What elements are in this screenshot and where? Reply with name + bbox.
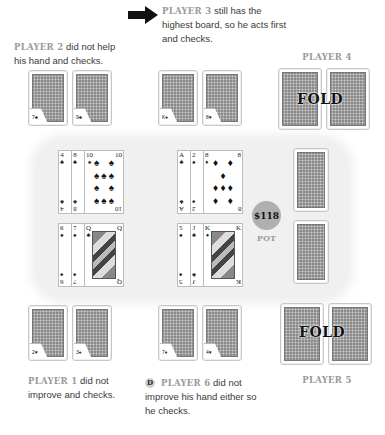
playing-card: 5♠5♠ bbox=[177, 223, 191, 287]
playing-card-face: Q♣ Q Q bbox=[84, 223, 124, 287]
playing-card: 8♦ 8 8 ♦♦♦♦♦♦♦♦ bbox=[203, 150, 243, 214]
player2-hole-cards: 7♣ 9♣ bbox=[28, 70, 112, 126]
player1-name: PLAYER 1 bbox=[28, 376, 77, 386]
playing-card-face: K♦ K K bbox=[203, 223, 243, 287]
arrow-right-icon bbox=[128, 6, 158, 24]
player5-label: PLAYER 5 bbox=[285, 375, 369, 385]
card-back: 3♠ bbox=[72, 305, 112, 361]
player6-name: PLAYER 6 bbox=[161, 378, 210, 388]
player3-name: PLAYER 3 bbox=[162, 6, 211, 16]
peeked-card-mark: 2♥ bbox=[32, 349, 38, 355]
card-pips: ♦♦♦♦♦♦♦♦ bbox=[212, 157, 234, 207]
player6-caption: DPLAYER 6 did not improve his hand eithe… bbox=[145, 376, 265, 418]
peeked-card-mark: 7♣ bbox=[32, 114, 38, 120]
player1-hole-cards: 2♥ 3♠ bbox=[28, 305, 112, 361]
card-back: 9♣ bbox=[72, 70, 112, 126]
player3-caption: PLAYER 3 still has the highest board, so… bbox=[162, 4, 292, 46]
player4-label: PLAYER 4 bbox=[285, 52, 369, 62]
playing-card: J♣J♣ bbox=[190, 223, 204, 287]
deck-stack bbox=[293, 148, 329, 284]
peeked-card-mark: 4♥ bbox=[206, 349, 212, 355]
player1-board-cards: 6♠6♠ 7♠7♠ Q♣ Q Q bbox=[58, 223, 124, 287]
player1-caption: PLAYER 1 did not improve and checks. bbox=[28, 374, 128, 402]
player3-board-cards: A♣A♣ 2♠2♠ 8♦ 8 8 ♦♦♦♦♦♦♦♦ bbox=[177, 150, 243, 214]
card-back: 2♥ bbox=[28, 305, 68, 361]
card-back: K♠ bbox=[158, 70, 198, 126]
card-back: 4♥ bbox=[202, 305, 242, 361]
player6-board-cards: 5♠5♠ J♣J♣ K♦ K K bbox=[177, 223, 243, 287]
player6-hole-cards: 7♦ 4♥ bbox=[158, 305, 242, 361]
playing-card: 7♠7♠ bbox=[71, 223, 85, 287]
player5-fold-label: FOLD bbox=[299, 324, 345, 340]
pot-chip: $118 bbox=[252, 201, 281, 230]
card-back: 7♦ bbox=[158, 305, 198, 361]
peeked-card-mark: 7♦ bbox=[162, 349, 167, 355]
player2-caption: PLAYER 2 did not help his hand and check… bbox=[14, 40, 124, 68]
king-face-art bbox=[211, 231, 235, 279]
playing-card: A♣A♣ bbox=[177, 150, 191, 214]
playing-card: 10♠ 10 10 ♠♠♠♠♠♠♠♠♠♠ bbox=[84, 150, 124, 214]
peeked-card-mark: K♠ bbox=[162, 114, 168, 120]
queen-face-art bbox=[92, 231, 116, 279]
player2-board-cards: 4♣4♣ 8♣8♣ 10♠ 10 10 ♠♠♠♠♠♠♠♠♠♠ bbox=[58, 150, 124, 214]
playing-card: 8♣8♣ bbox=[71, 150, 85, 214]
card-back: 7♣ bbox=[28, 70, 68, 126]
peeked-card-mark: 9♣ bbox=[76, 114, 82, 120]
player2-name: PLAYER 2 bbox=[14, 42, 63, 52]
player3-hole-cards: K♠ 8♥ bbox=[158, 70, 242, 126]
playing-card: 2♠2♠ bbox=[190, 150, 204, 214]
pot-amount: $118 bbox=[254, 211, 279, 221]
dealer-button-icon: D bbox=[145, 378, 155, 388]
card-back bbox=[293, 220, 329, 284]
card-back: 8♥ bbox=[202, 70, 242, 126]
peeked-card-mark: 8♥ bbox=[206, 114, 212, 120]
card-back bbox=[293, 148, 329, 212]
pot-label: POT bbox=[252, 233, 281, 243]
peeked-card-mark: 3♠ bbox=[76, 349, 81, 355]
card-pips: ♠♠♠♠♠♠♠♠♠♠ bbox=[93, 157, 115, 207]
playing-card: 4♣4♣ bbox=[58, 150, 72, 214]
player4-fold-label: FOLD bbox=[297, 91, 343, 107]
playing-card: 6♠6♠ bbox=[58, 223, 72, 287]
